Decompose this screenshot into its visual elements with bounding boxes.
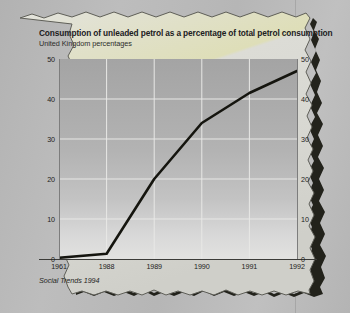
x-axis-tick-1992: 1992 [280, 262, 314, 271]
x-axis-tick-1990: 1990 [185, 262, 219, 271]
y-axis-right-tick-30: 30 [301, 135, 317, 144]
plot-area [59, 59, 297, 259]
y-axis-right-tick-50: 50 [301, 55, 317, 64]
source-note: Social Trends 1994 [39, 276, 100, 285]
chart-title: Consumption of unleaded petrol as a perc… [39, 28, 324, 38]
x-axis-tick-1991: 1991 [232, 262, 266, 271]
y-axis-left-tick-10: 10 [39, 215, 55, 224]
y-axis-left-tick-50: 50 [39, 55, 55, 64]
x-axis-tick-1989: 1989 [137, 262, 171, 271]
chart-subtitle: United Kingdom percentages [39, 39, 324, 48]
x-axis-tick-1988: 1988 [90, 262, 124, 271]
horizontal-gridlines [59, 99, 297, 219]
y-axis-right-tick-40: 40 [301, 95, 317, 104]
vertical-gridlines [107, 59, 250, 259]
y-axis-left-line [59, 59, 60, 260]
y-axis-left-tick-30: 30 [39, 135, 55, 144]
x-axis-tick-1961: 1961 [42, 262, 76, 271]
chart-figure: Consumption of unleaded petrol as a perc… [14, 8, 336, 302]
y-axis-right-tick-10: 10 [301, 215, 317, 224]
y-axis-right-tick-20: 20 [301, 175, 317, 184]
y-axis-left-tick-20: 20 [39, 175, 55, 184]
y-axis-left-tick-40: 40 [39, 95, 55, 104]
y-axis-right-line [297, 59, 298, 260]
plot-canvas [59, 59, 297, 259]
x-axis-line [39, 259, 317, 260]
